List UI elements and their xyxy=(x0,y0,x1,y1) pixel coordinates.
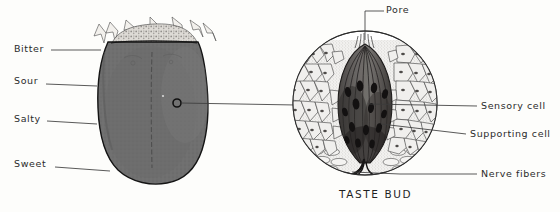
leader-salty xyxy=(47,121,97,124)
label-supporting-cell: Supporting cell xyxy=(470,129,551,139)
label-salty: Salty xyxy=(14,114,41,124)
label-pore: Pore xyxy=(386,5,409,15)
label-sensory-cell: Sensory cell xyxy=(481,101,546,111)
caption-taste-bud: TASTE BUD xyxy=(339,189,412,200)
label-bitter: Bitter xyxy=(14,44,44,54)
tongue-highlight-dot xyxy=(162,95,164,97)
leader-sweet xyxy=(55,167,110,171)
tongue-group xyxy=(94,17,216,184)
leader-sour xyxy=(46,84,97,86)
taste-bud-group xyxy=(285,31,442,180)
label-nerve-fibers: Nerve fibers xyxy=(481,169,546,179)
label-sweet: Sweet xyxy=(14,159,46,169)
anatomical-figure: Bitter Sour Salty Sweet Pore Sensory cel… xyxy=(0,0,560,212)
figure-canvas xyxy=(0,0,560,212)
label-sour: Sour xyxy=(14,76,38,86)
